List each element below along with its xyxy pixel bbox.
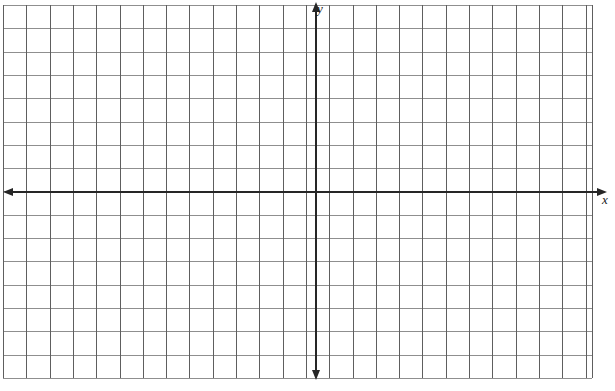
graph-paper-figure: y x [0, 0, 615, 391]
x-axis-left-arrowhead [3, 188, 13, 196]
y-axis-label: y [317, 2, 323, 15]
coordinate-grid-svg [0, 0, 615, 391]
x-axis-label: x [602, 193, 608, 206]
